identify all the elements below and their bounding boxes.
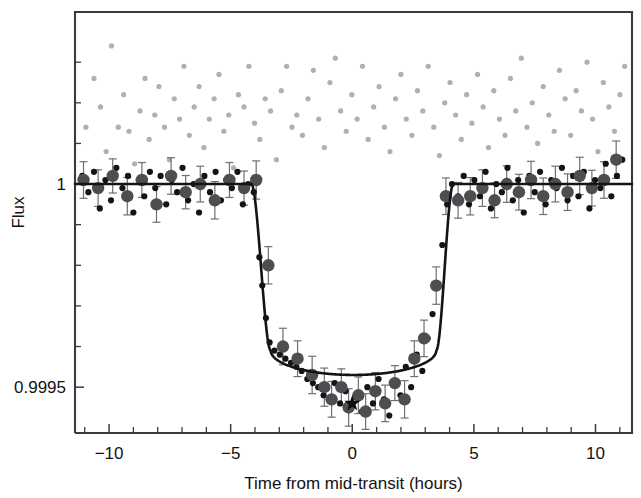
comparison-point xyxy=(212,96,217,101)
comparison-point xyxy=(142,76,147,81)
unbinned-point xyxy=(515,177,521,183)
comparison-point xyxy=(116,125,121,130)
figure-root: −10−5051010.9995Time from mid-transit (h… xyxy=(0,0,641,498)
unbinned-point xyxy=(408,384,414,390)
unbinned-point xyxy=(85,189,91,195)
binned-point xyxy=(318,381,330,393)
comparison-star-points xyxy=(83,43,627,170)
unbinned-point xyxy=(510,197,516,203)
comparison-point xyxy=(579,108,584,113)
comparison-point xyxy=(284,64,289,69)
comparison-point xyxy=(152,112,157,117)
binned-point xyxy=(165,170,177,182)
comparison-point xyxy=(535,141,540,146)
comparison-point xyxy=(590,116,595,121)
unbinned-point xyxy=(499,189,505,195)
comparison-point xyxy=(595,149,600,154)
binned-point xyxy=(209,194,221,206)
comparison-point xyxy=(365,137,370,142)
comparison-point xyxy=(371,104,376,109)
unbinned-point xyxy=(163,201,169,207)
binned-point xyxy=(179,186,191,198)
binned-point xyxy=(537,190,549,202)
comparison-point xyxy=(274,157,279,162)
comparison-point xyxy=(563,96,568,101)
comparison-point xyxy=(252,121,257,126)
unbinned-point xyxy=(207,189,213,195)
binned-point xyxy=(262,259,274,271)
comparison-point xyxy=(584,60,589,65)
comparison-point xyxy=(622,64,627,69)
unbinned-point xyxy=(504,165,510,171)
comparison-point xyxy=(524,125,529,130)
comparison-point xyxy=(268,108,273,113)
comparison-point xyxy=(226,112,231,117)
unbinned-point xyxy=(130,209,136,215)
unbinned-point xyxy=(174,189,180,195)
binned-point xyxy=(418,332,430,344)
comparison-point xyxy=(91,76,96,81)
binned-point xyxy=(464,190,476,202)
comparison-point xyxy=(221,129,226,134)
comparison-point xyxy=(289,125,294,130)
comparison-point xyxy=(279,88,284,93)
comparison-point xyxy=(201,145,206,150)
comparison-point xyxy=(355,116,360,121)
comparison-point xyxy=(246,64,251,69)
comparison-point xyxy=(121,92,126,97)
comparison-point xyxy=(104,149,109,154)
comparison-point xyxy=(344,129,349,134)
binned-point xyxy=(352,389,364,401)
y-axis-title: Flux xyxy=(9,196,28,229)
comparison-point xyxy=(546,112,551,117)
comparison-point xyxy=(398,72,403,77)
comparison-point xyxy=(481,104,486,109)
unbinned-point xyxy=(537,169,543,175)
comparison-point xyxy=(181,64,186,69)
binned-point xyxy=(277,340,289,352)
model-curve-path xyxy=(75,184,632,375)
comparison-point xyxy=(415,88,420,93)
unbinned-point xyxy=(603,161,609,167)
binned-point xyxy=(325,393,337,405)
comparison-point xyxy=(376,84,381,89)
unbinned-point xyxy=(91,169,97,175)
unbinned-point xyxy=(337,400,343,406)
binned-point xyxy=(107,170,119,182)
binned-point xyxy=(488,194,500,206)
unbinned-point xyxy=(608,193,614,199)
unbinned-point xyxy=(147,169,153,175)
comparison-point xyxy=(437,153,442,158)
axis-ticks xyxy=(75,62,620,433)
comparison-point xyxy=(349,92,354,97)
binned-point xyxy=(574,170,586,182)
comparison-point xyxy=(257,137,262,142)
comparison-point xyxy=(459,137,464,142)
comparison-point xyxy=(147,137,152,142)
unbinned-point xyxy=(108,197,114,203)
comparison-point xyxy=(137,108,142,113)
unbinned-point xyxy=(439,242,445,248)
comparison-point xyxy=(387,149,392,154)
transit-model-curve xyxy=(75,184,632,375)
binned-point xyxy=(291,353,303,365)
comparison-point xyxy=(187,133,192,138)
comparison-point xyxy=(502,133,507,138)
comparison-point xyxy=(617,92,622,97)
comparison-point xyxy=(601,80,606,85)
comparison-point xyxy=(172,96,177,101)
unbinned-point xyxy=(586,205,592,211)
comparison-point xyxy=(196,84,201,89)
x-tick-label: −10 xyxy=(95,444,124,463)
comparison-point xyxy=(338,108,343,113)
y-tick-label: 0.9995 xyxy=(14,378,66,397)
comparison-point xyxy=(132,161,137,166)
unbinned-point xyxy=(125,173,131,179)
comparison-point xyxy=(98,104,103,109)
x-tick-label: −5 xyxy=(221,444,240,463)
unbinned-point xyxy=(375,376,381,382)
comparison-point xyxy=(360,64,365,69)
comparison-point xyxy=(557,68,562,73)
comparison-point xyxy=(409,133,414,138)
unbinned-point xyxy=(386,412,392,418)
